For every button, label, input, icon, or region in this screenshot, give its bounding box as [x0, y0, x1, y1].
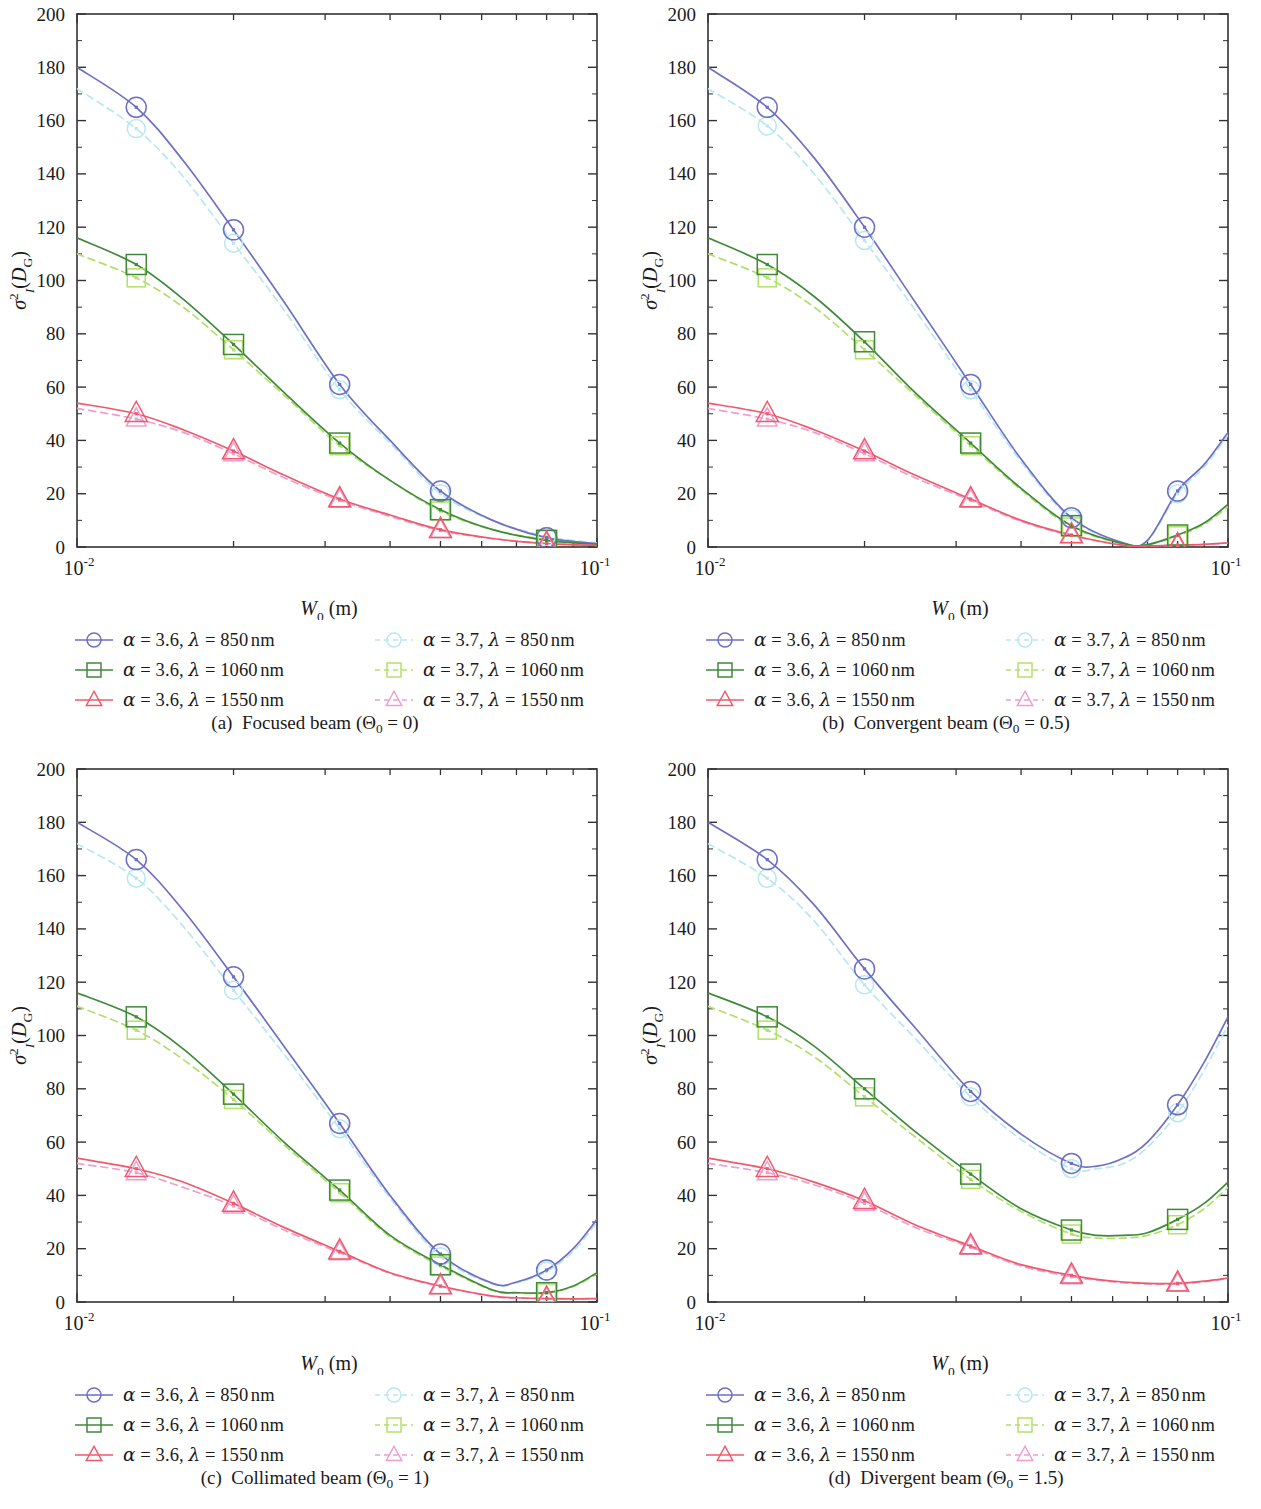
legend-label-a36-1550: α = 3.6, λ = 1550nm — [123, 689, 284, 711]
svg-text:20: 20 — [46, 1238, 65, 1259]
legend-item-a37-850: α = 3.7, λ = 850nm — [374, 629, 634, 651]
svg-text:120: 120 — [668, 972, 697, 993]
legend-item-a36-850: α = 3.6, λ = 850nm — [705, 1384, 1005, 1406]
legend-label-a36-850: α = 3.6, λ = 850nm — [754, 629, 906, 651]
svg-text:100: 100 — [668, 270, 697, 291]
legend-item-a37-1060: α = 3.7, λ = 1060nm — [374, 659, 634, 681]
svg-text:140: 140 — [668, 163, 697, 184]
svg-text:200: 200 — [37, 4, 66, 25]
legend-swatch-a37-1060 — [374, 1414, 414, 1436]
legend-label-a37-850: α = 3.7, λ = 850nm — [423, 1384, 575, 1406]
legend-label-a36-1060: α = 3.6, λ = 1060nm — [123, 659, 284, 681]
svg-text:60: 60 — [677, 1132, 696, 1153]
legend-swatch-a36-850 — [74, 629, 114, 651]
legend-swatch-a37-1550 — [374, 1444, 414, 1466]
legend-item-a36-1060: α = 3.6, λ = 1060nm — [705, 1414, 1005, 1436]
svg-text:80: 80 — [46, 323, 65, 344]
legend-a: α = 3.6, λ = 850nmα = 3.7, λ = 850nmα = … — [74, 625, 634, 715]
plot-a: 02040608010012014016018020010-210-1W0 (m… — [0, 0, 630, 620]
legend-c: α = 3.6, λ = 850nmα = 3.7, λ = 850nmα = … — [74, 1380, 634, 1470]
legend-item-a36-1060: α = 3.6, λ = 1060nm — [74, 659, 374, 681]
legend-label-a37-1060: α = 3.7, λ = 1060nm — [423, 659, 584, 681]
svg-text:200: 200 — [668, 759, 697, 780]
svg-text:180: 180 — [668, 812, 697, 833]
svg-text:80: 80 — [677, 323, 696, 344]
svg-text:W0 (m): W0 (m) — [931, 1352, 988, 1375]
legend-label-a37-1060: α = 3.7, λ = 1060nm — [1054, 1414, 1215, 1436]
svg-text:160: 160 — [668, 110, 697, 131]
legend-item-a37-1060: α = 3.7, λ = 1060nm — [1005, 659, 1261, 681]
svg-text:0: 0 — [687, 537, 697, 558]
svg-text:σ2I(DG): σ2I(DG) — [6, 251, 37, 310]
legend-swatch-a37-1060 — [374, 659, 414, 681]
legend-swatch-a36-1550 — [74, 689, 114, 711]
legend-swatch-a36-850 — [705, 1384, 745, 1406]
legend-item-a36-1550: α = 3.6, λ = 1550nm — [74, 689, 374, 711]
legend-swatch-a37-1550 — [374, 689, 414, 711]
svg-text:0: 0 — [56, 537, 66, 558]
caption-b: (b) Convergent beam (Θ0 = 0.5) — [631, 712, 1261, 737]
svg-text:20: 20 — [677, 1238, 696, 1259]
legend-label-a36-1060: α = 3.6, λ = 1060nm — [754, 1414, 915, 1436]
legend-d: α = 3.6, λ = 850nmα = 3.7, λ = 850nmα = … — [705, 1380, 1261, 1470]
legend-b: α = 3.6, λ = 850nmα = 3.7, λ = 850nmα = … — [705, 625, 1261, 715]
legend-item-a36-850: α = 3.6, λ = 850nm — [705, 629, 1005, 651]
svg-text:60: 60 — [46, 1132, 65, 1153]
legend-label-a37-850: α = 3.7, λ = 850nm — [1054, 1384, 1206, 1406]
svg-text:80: 80 — [46, 1078, 65, 1099]
legend-swatch-a37-1550 — [1005, 689, 1045, 711]
svg-text:W0 (m): W0 (m) — [300, 1352, 357, 1375]
legend-swatch-a36-1550 — [705, 1444, 745, 1466]
svg-text:10-2: 10-2 — [695, 554, 726, 579]
legend-item-a36-1550: α = 3.6, λ = 1550nm — [705, 1444, 1005, 1466]
legend-item-a37-1550: α = 3.7, λ = 1550nm — [374, 1444, 634, 1466]
legend-label-a36-1550: α = 3.6, λ = 1550nm — [754, 689, 915, 711]
svg-text:40: 40 — [677, 1185, 696, 1206]
legend-label-a37-1060: α = 3.7, λ = 1060nm — [423, 1414, 584, 1436]
legend-label-a36-1060: α = 3.6, λ = 1060nm — [754, 659, 915, 681]
legend-label-a36-1550: α = 3.6, λ = 1550nm — [123, 1444, 284, 1466]
svg-text:180: 180 — [37, 812, 66, 833]
legend-label-a37-1550: α = 3.7, λ = 1550nm — [423, 1444, 584, 1466]
svg-text:200: 200 — [37, 759, 66, 780]
legend-label-a37-1060: α = 3.7, λ = 1060nm — [1054, 659, 1215, 681]
svg-text:20: 20 — [46, 483, 65, 504]
svg-text:120: 120 — [37, 217, 66, 238]
svg-text:0: 0 — [687, 1292, 697, 1313]
legend-label-a36-1550: α = 3.6, λ = 1550nm — [754, 1444, 915, 1466]
svg-text:160: 160 — [37, 110, 66, 131]
legend-label-a37-1550: α = 3.7, λ = 1550nm — [1054, 1444, 1215, 1466]
svg-text:140: 140 — [37, 163, 66, 184]
legend-swatch-a36-1550 — [74, 1444, 114, 1466]
legend-swatch-a37-850 — [374, 629, 414, 651]
legend-item-a36-1550: α = 3.6, λ = 1550nm — [74, 1444, 374, 1466]
svg-text:W0 (m): W0 (m) — [300, 597, 357, 620]
caption-d: (d) Divergent beam (Θ0 = 1.5) — [631, 1467, 1261, 1492]
legend-item-a37-1060: α = 3.7, λ = 1060nm — [374, 1414, 634, 1436]
svg-text:10-2: 10-2 — [64, 1309, 95, 1334]
legend-item-a37-1550: α = 3.7, λ = 1550nm — [1005, 689, 1261, 711]
legend-item-a36-850: α = 3.6, λ = 850nm — [74, 629, 374, 651]
legend-swatch-a36-850 — [74, 1384, 114, 1406]
svg-text:W0 (m): W0 (m) — [931, 597, 988, 620]
legend-swatch-a37-850 — [374, 1384, 414, 1406]
legend-swatch-a36-1060 — [705, 1414, 745, 1436]
svg-text:10-2: 10-2 — [64, 554, 95, 579]
panel-a: 02040608010012014016018020010-210-1W0 (m… — [0, 0, 630, 755]
legend-item-a36-1550: α = 3.6, λ = 1550nm — [705, 689, 1005, 711]
svg-text:160: 160 — [37, 865, 66, 886]
legend-item-a37-1550: α = 3.7, λ = 1550nm — [374, 689, 634, 711]
legend-swatch-a37-850 — [1005, 629, 1045, 651]
legend-item-a37-850: α = 3.7, λ = 850nm — [374, 1384, 634, 1406]
svg-text:60: 60 — [46, 377, 65, 398]
plot-d: 02040608010012014016018020010-210-1W0 (m… — [631, 755, 1261, 1375]
svg-text:σ2I(DG): σ2I(DG) — [637, 1006, 668, 1065]
svg-text:0: 0 — [56, 1292, 66, 1313]
svg-text:10-1: 10-1 — [580, 554, 611, 579]
legend-item-a37-850: α = 3.7, λ = 850nm — [1005, 1384, 1261, 1406]
svg-text:σ2I(DG): σ2I(DG) — [6, 1006, 37, 1065]
svg-text:10-1: 10-1 — [1211, 1309, 1242, 1334]
svg-text:20: 20 — [677, 483, 696, 504]
plot-c: 02040608010012014016018020010-210-1W0 (m… — [0, 755, 630, 1375]
legend-item-a36-850: α = 3.6, λ = 850nm — [74, 1384, 374, 1406]
